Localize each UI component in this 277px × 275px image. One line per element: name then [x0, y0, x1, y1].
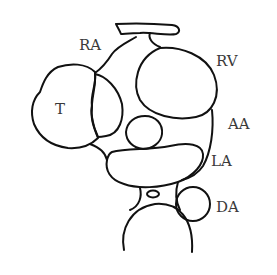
top-bar-shape	[116, 24, 179, 35]
lower-left-connector	[130, 188, 141, 210]
heart-diagram: RA RV AA LA DA T	[0, 0, 277, 275]
ra-contour	[95, 37, 136, 73]
da-vessel	[176, 187, 210, 221]
label-la: LA	[211, 152, 232, 170]
small-oval	[147, 191, 159, 198]
label-ra: RA	[79, 36, 101, 54]
label-t: T	[55, 100, 65, 118]
la-chamber	[107, 144, 203, 187]
t-lobe	[91, 74, 122, 137]
stalk-line	[149, 33, 160, 47]
bottom-vessel	[123, 204, 192, 252]
label-rv: RV	[216, 52, 239, 70]
rv-chamber	[136, 48, 217, 119]
t-la-connector	[90, 144, 107, 160]
label-aa: AA	[227, 115, 250, 133]
small-chamber	[126, 116, 162, 149]
label-da: DA	[216, 198, 239, 216]
